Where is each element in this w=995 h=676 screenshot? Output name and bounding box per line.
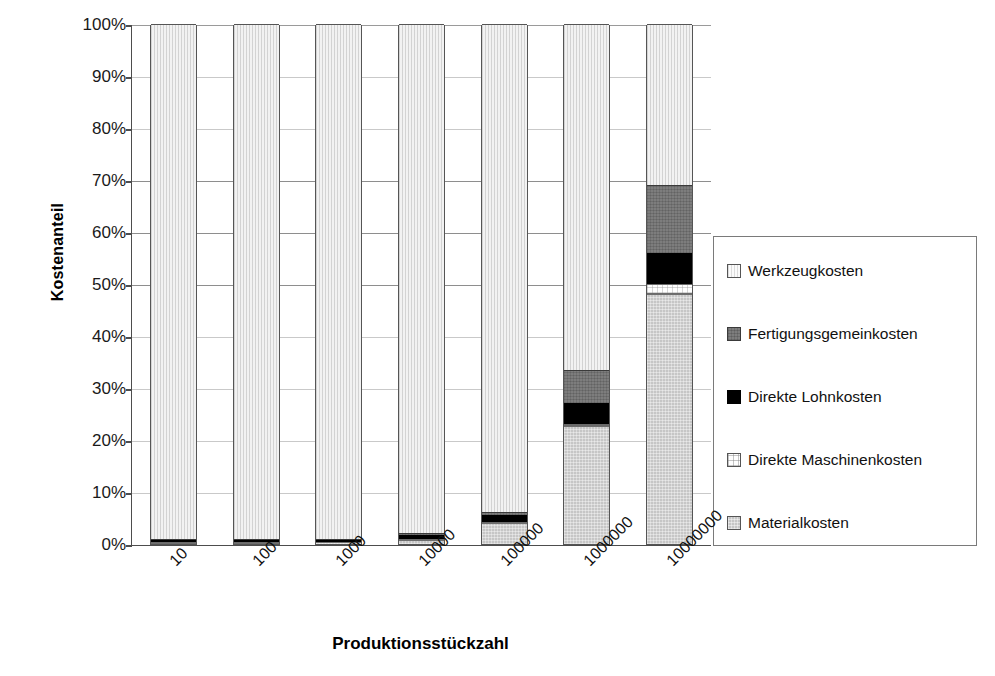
y-axis-tick-mark [126,493,132,495]
bar-segment [151,540,196,542]
x-axis-tick-label: 10 [166,544,191,569]
y-axis-tick-labels: 0%10%20%30%40%50%60%70%80%90%100% [48,0,126,676]
legend-swatch-icon [727,264,741,278]
y-axis-tick-mark [126,285,132,287]
bar-segment [482,24,527,512]
legend-swatch-icon [727,327,741,341]
y-axis-tick-mark [126,181,132,183]
bar-segment [647,185,692,253]
bar-segment [151,539,196,540]
bar-segment [647,294,692,544]
bar-segment [647,284,692,294]
y-axis-tick-label: 60% [54,224,126,241]
y-axis-tick-label: 10% [54,484,126,501]
y-axis-tick-label: 30% [54,380,126,397]
legend-item[interactable]: Werkzeugkosten [727,261,863,281]
legend-item[interactable]: Direkte Maschinenkosten [727,450,922,470]
bar-1000[interactable] [315,25,362,545]
y-axis-tick-mark [126,441,132,443]
bar-1000000[interactable] [563,25,610,545]
y-axis-tick-label: 0% [54,536,126,553]
chart-legend: WerkzeugkostenFertigungsgemeinkostenDire… [713,236,977,546]
legend-swatch-icon [727,453,741,467]
bar-100000[interactable] [481,25,528,545]
legend-label: Werkzeugkosten [748,262,863,280]
bar-100[interactable] [233,25,280,545]
bar-segment [316,24,361,539]
legend-label: Materialkosten [748,514,849,532]
bar-segment [647,253,692,284]
plot-area [131,25,711,546]
bar-segment [564,403,609,424]
bar-segment [647,24,692,185]
bar-segment [564,424,609,427]
bar-segment [234,24,279,539]
y-axis-tick-mark [126,389,132,391]
legend-item[interactable]: Direkte Lohnkosten [727,387,882,407]
y-axis-tick-mark [126,25,132,27]
y-axis-tick-mark [126,337,132,339]
bar-segment [482,515,527,521]
legend-swatch-icon [727,390,741,404]
y-axis-tick-mark [126,129,132,131]
legend-swatch-icon [727,516,741,530]
y-axis-tick-label: 100% [54,16,126,33]
bar-segment [399,24,444,533]
y-axis-tick-label: 70% [54,172,126,189]
legend-item[interactable]: Materialkosten [727,513,849,533]
bar-segment [151,543,196,544]
y-axis-tick-mark [126,77,132,79]
bar-segment [564,426,609,544]
bar-segment [151,24,196,539]
bar-segment [564,24,609,370]
y-axis-tick-label: 20% [54,432,126,449]
legend-label: Direkte Maschinenkosten [748,451,922,469]
x-axis-title: Produktionsstückzahl [131,634,710,654]
y-axis-tick-mark [126,545,132,547]
legend-label: Fertigungsgemeinkosten [748,325,918,343]
bar-segment [482,512,527,515]
y-axis-tick-label: 40% [54,328,126,345]
bar-segment [564,370,609,403]
y-axis-tick-label: 80% [54,120,126,137]
chart-root: Kostenanteil 0%10%20%30%40%50%60%70%80%9… [0,0,995,676]
bar-10000[interactable] [398,25,445,545]
bar-10000000[interactable] [646,25,693,545]
legend-label: Direkte Lohnkosten [748,388,882,406]
legend-item[interactable]: Fertigungsgemeinkosten [727,324,918,344]
y-axis-tick-mark [126,233,132,235]
bar-10[interactable] [150,25,197,545]
y-axis-tick-label: 90% [54,68,126,85]
y-axis-tick-label: 50% [54,276,126,293]
bar-segment [234,539,279,540]
